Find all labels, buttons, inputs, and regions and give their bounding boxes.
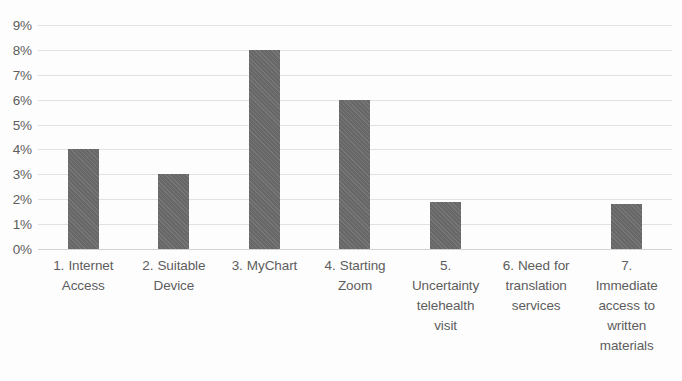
y-axis: 9%8%7%6%5%4%3%2%1%0% bbox=[0, 0, 36, 381]
y-axis-tick-label: 1% bbox=[0, 217, 32, 232]
bars-layer bbox=[38, 25, 672, 249]
y-axis-tick-label: 5% bbox=[0, 117, 32, 132]
x-axis-category-label: 6. Need fortranslationservices bbox=[491, 256, 582, 316]
bar[interactable] bbox=[249, 50, 280, 249]
x-axis-category-label: 1. InternetAccess bbox=[38, 256, 129, 296]
y-axis-tick-label: 7% bbox=[0, 67, 32, 82]
bar-slot bbox=[310, 25, 401, 249]
y-axis-tick-label: 0% bbox=[0, 242, 32, 257]
x-axis-category-line: written bbox=[581, 316, 672, 336]
y-axis-tick-label: 9% bbox=[0, 18, 32, 33]
bar-slot bbox=[491, 25, 582, 249]
y-axis-tick-label: 2% bbox=[0, 192, 32, 207]
plot-area bbox=[38, 25, 672, 249]
bar-slot bbox=[581, 25, 672, 249]
bar[interactable] bbox=[68, 149, 99, 249]
bar-slot bbox=[38, 25, 129, 249]
bar[interactable] bbox=[339, 100, 370, 249]
x-axis-category-line: services bbox=[491, 296, 582, 316]
bar[interactable] bbox=[611, 204, 642, 249]
y-axis-tick-label: 3% bbox=[0, 167, 32, 182]
bar-slot bbox=[400, 25, 491, 249]
x-axis-category-line: Uncertainty bbox=[400, 276, 491, 296]
x-axis: 1. InternetAccess2. SuitableDevice3. MyC… bbox=[38, 256, 672, 376]
x-axis-category-label: 5.Uncertaintytelehealthvisit bbox=[400, 256, 491, 336]
bar[interactable] bbox=[158, 174, 189, 249]
x-axis-category-line: Immediate bbox=[581, 276, 672, 296]
x-axis-category-line: 6. Need for bbox=[491, 256, 582, 276]
x-axis-category-line: 2. Suitable bbox=[129, 256, 220, 276]
gridline bbox=[38, 249, 672, 250]
x-axis-category-line: 5. bbox=[400, 256, 491, 276]
x-axis-category-line: Zoom bbox=[310, 276, 401, 296]
x-axis-category-label: 3. MyChart bbox=[219, 256, 310, 276]
bar-chart: 9%8%7%6%5%4%3%2%1%0% 1. InternetAccess2.… bbox=[0, 0, 682, 381]
x-axis-category-line: translation bbox=[491, 276, 582, 296]
x-axis-category-line: 4. Starting bbox=[310, 256, 401, 276]
y-axis-tick-label: 6% bbox=[0, 92, 32, 107]
bar-slot bbox=[129, 25, 220, 249]
y-axis-tick-label: 8% bbox=[0, 42, 32, 57]
bar[interactable] bbox=[430, 202, 461, 249]
x-axis-category-label: 4. StartingZoom bbox=[310, 256, 401, 296]
x-axis-category-line: telehealth bbox=[400, 296, 491, 316]
x-axis-category-label: 7.Immediateaccess towrittenmaterials bbox=[581, 256, 672, 356]
x-axis-category-line: 1. Internet bbox=[38, 256, 129, 276]
bar-slot bbox=[219, 25, 310, 249]
x-axis-category-line: Device bbox=[129, 276, 220, 296]
x-axis-category-line: 3. MyChart bbox=[219, 256, 310, 276]
y-axis-tick-label: 4% bbox=[0, 142, 32, 157]
x-axis-category-line: visit bbox=[400, 316, 491, 336]
x-axis-category-label: 2. SuitableDevice bbox=[129, 256, 220, 296]
x-axis-category-line: Access bbox=[38, 276, 129, 296]
x-axis-category-line: 7. bbox=[581, 256, 672, 276]
x-axis-category-line: access to bbox=[581, 296, 672, 316]
x-axis-category-line: materials bbox=[581, 336, 672, 356]
